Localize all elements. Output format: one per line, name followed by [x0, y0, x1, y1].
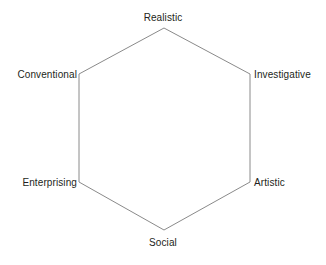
- vertex-label-investigative: Investigative: [254, 69, 326, 81]
- vertex-label-social: Social: [0, 237, 326, 249]
- hexagon-diagram: Realistic Investigative Artistic Social …: [0, 0, 326, 265]
- vertex-label-realistic: Realistic: [0, 12, 326, 24]
- vertex-label-artistic: Artistic: [254, 177, 326, 189]
- hexagon-outline: [79, 28, 250, 230]
- vertex-label-conventional: Conventional: [0, 69, 77, 81]
- vertex-label-enterprising: Enterprising: [0, 177, 77, 189]
- hexagon-shape: [0, 0, 326, 265]
